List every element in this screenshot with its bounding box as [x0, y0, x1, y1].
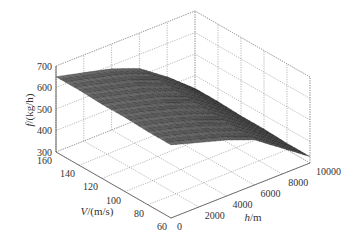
h-tick-label: 10000 — [316, 166, 341, 177]
z-tick-label: 600 — [37, 82, 52, 93]
wall-grid-line — [195, 33, 310, 99]
z-tick-label: 300 — [37, 147, 52, 158]
h-tick-label: 4000 — [233, 199, 253, 210]
z-tick-label: 700 — [37, 61, 52, 72]
floor-grid-line — [125, 137, 264, 192]
v-tick-label: 120 — [83, 181, 98, 192]
y-axis-label: V/(m/s) — [80, 205, 113, 218]
surface-face — [300, 152, 310, 156]
h-tick-label: 0 — [177, 221, 182, 232]
surface-plot: 0200040006000800010000608010012014016030… — [0, 0, 354, 247]
v-tick-label: 100 — [106, 195, 121, 206]
x-axis-label: h/m — [244, 211, 262, 223]
wall-top-edge — [195, 11, 310, 77]
wall-top-edge — [56, 11, 195, 66]
z-tick-label: 400 — [37, 125, 52, 136]
v-tick-label: 140 — [60, 168, 75, 179]
floor-grid-line — [84, 141, 199, 207]
h-tick-label: 6000 — [260, 188, 280, 199]
z-tick-label: 500 — [37, 104, 52, 115]
surface-mesh — [56, 69, 310, 157]
h-tick-label: 2000 — [205, 210, 225, 221]
z-axis-label: f/(kg/h) — [23, 93, 36, 126]
v-tick-label: 80 — [134, 208, 144, 219]
v-tick-label: 60 — [157, 221, 167, 232]
h-tick-label: 8000 — [288, 177, 308, 188]
